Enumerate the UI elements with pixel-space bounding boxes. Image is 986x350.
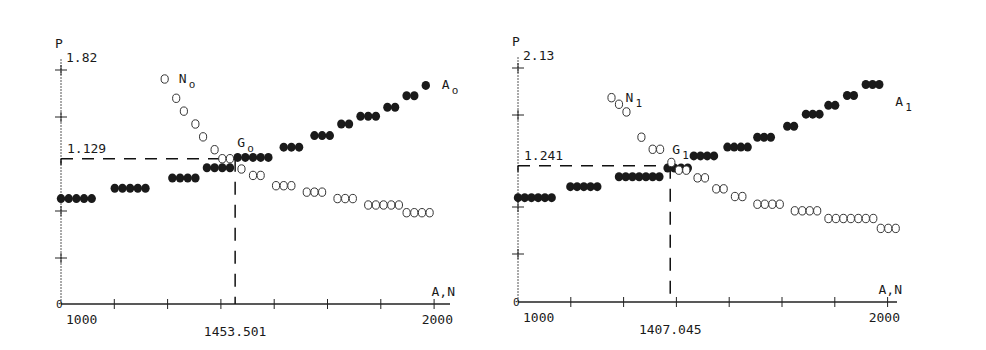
chart-right-plot: P2.13010002000A,N1.2411407.045A1N1G1	[493, 0, 986, 350]
series-label-sub-N0: o	[189, 78, 196, 91]
data-point-filled	[326, 131, 334, 140]
equilibrium-price-label: 1.129	[67, 141, 106, 156]
data-point-open	[683, 166, 690, 174]
data-point-open	[840, 214, 847, 222]
data-point-open	[657, 145, 664, 153]
data-point-open	[855, 214, 862, 222]
data-point-open	[334, 194, 341, 202]
equilibrium-label-sub: 1	[682, 149, 689, 162]
data-point-filled	[256, 153, 264, 162]
equilibrium-quantity-label: 1407.045	[639, 322, 702, 337]
data-point-open	[791, 207, 798, 215]
data-point-filled	[203, 163, 211, 172]
y-axis-max-label: 2.13	[523, 48, 554, 63]
data-point-filled	[850, 91, 858, 100]
data-point-filled	[191, 174, 199, 183]
data-point-open	[649, 145, 656, 153]
data-point-open	[342, 194, 349, 202]
data-point-open	[870, 214, 877, 222]
data-point-open	[731, 192, 738, 200]
origin-label: 0	[56, 298, 63, 311]
data-point-open	[226, 155, 233, 163]
data-point-open	[211, 146, 218, 154]
data-point-open	[892, 224, 899, 232]
equilibrium-label: G	[672, 142, 680, 157]
data-point-open	[257, 171, 264, 179]
data-point-open	[608, 93, 615, 101]
series-N1	[608, 93, 899, 232]
data-point-filled	[710, 151, 718, 160]
data-point-filled	[176, 174, 184, 183]
x-tick-label-max: 2000	[422, 312, 453, 327]
data-point-filled	[815, 110, 823, 119]
data-point-open	[395, 201, 402, 209]
data-point-filled	[295, 143, 303, 152]
data-point-open	[249, 171, 256, 179]
data-point-filled	[356, 112, 364, 121]
data-point-open	[862, 214, 869, 222]
data-point-filled	[655, 172, 663, 181]
data-point-filled	[831, 101, 839, 110]
data-point-open	[238, 165, 245, 173]
data-point-open	[701, 174, 708, 182]
y-axis-label: P	[512, 34, 520, 49]
data-point-filled	[80, 194, 88, 203]
data-point-open	[288, 182, 295, 190]
series-label-sub-A0: o	[452, 84, 459, 97]
data-point-filled	[141, 184, 149, 193]
x-axis-label: A,N	[879, 282, 902, 297]
data-point-open	[418, 209, 425, 217]
y-axis-max-label: 1.82	[66, 50, 97, 65]
data-point-filled	[88, 194, 96, 203]
data-point-filled	[233, 153, 241, 162]
data-point-open	[180, 107, 187, 115]
data-point-open	[319, 188, 326, 196]
data-point-filled	[593, 182, 601, 191]
x-tick-label-max: 2000	[869, 310, 900, 325]
data-point-open	[272, 182, 279, 190]
data-point-filled	[134, 184, 142, 193]
data-point-filled	[875, 80, 883, 89]
data-point-open	[303, 188, 310, 196]
series-label-sub-N1: 1	[636, 97, 643, 110]
data-point-filled	[547, 193, 555, 202]
data-point-open	[877, 224, 884, 232]
data-point-open	[199, 133, 206, 141]
data-point-open	[219, 155, 226, 163]
data-point-open	[825, 214, 832, 222]
data-point-filled	[372, 112, 380, 121]
data-point-filled	[310, 131, 318, 140]
data-point-open	[832, 214, 839, 222]
x-axis-label: A,N	[432, 284, 455, 299]
data-point-filled	[210, 163, 218, 172]
y-axis-label: P	[55, 36, 63, 51]
data-point-open	[713, 185, 720, 193]
data-point-filled	[337, 120, 345, 129]
data-point-filled	[383, 103, 391, 112]
data-point-open	[668, 158, 675, 166]
data-point-open	[411, 209, 418, 217]
data-point-open	[280, 182, 287, 190]
x-tick-label-min: 1000	[523, 310, 554, 325]
data-point-open	[173, 94, 180, 102]
data-point-filled	[226, 163, 234, 172]
series-label-A1: A	[895, 94, 903, 109]
data-point-filled	[287, 143, 295, 152]
data-point-filled	[767, 133, 775, 142]
data-point-filled	[790, 122, 798, 131]
data-point-open	[403, 209, 410, 217]
chart-left: P1.82010002000A,N1.1291453.501AoNoGo	[0, 0, 493, 350]
data-point-open	[372, 201, 379, 209]
data-point-open	[311, 188, 318, 196]
x-tick-label-min: 1000	[66, 312, 97, 327]
data-point-open	[761, 200, 768, 208]
data-point-open	[192, 120, 199, 128]
data-point-open	[426, 209, 433, 217]
chart-left-plot: P1.82010002000A,N1.1291453.501AoNoGo	[0, 0, 493, 350]
data-point-open	[694, 174, 701, 182]
data-point-open	[615, 100, 622, 108]
data-point-open	[675, 166, 682, 174]
series-label-sub-A1: 1	[905, 101, 912, 114]
data-point-open	[365, 201, 372, 209]
data-point-filled	[364, 112, 372, 121]
